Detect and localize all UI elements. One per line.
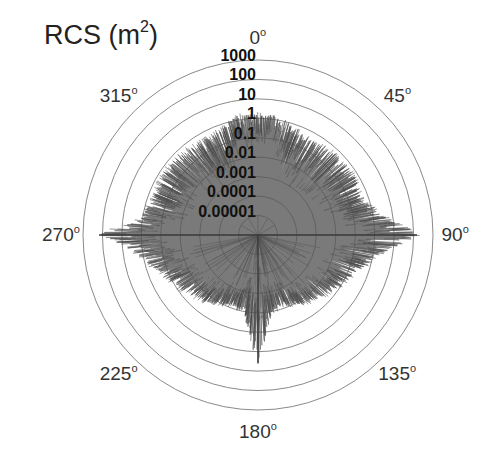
angle-label-225: 225o (100, 363, 138, 385)
angle-label-0: 0o (250, 27, 267, 49)
angle-label-90: 90o (442, 224, 469, 246)
radial-label: 1000 (146, 48, 256, 64)
radial-label: 0.0001 (146, 184, 256, 200)
angle-label-180: 180o (239, 421, 277, 443)
radial-label: 0.01 (146, 145, 256, 161)
radial-label: 0.00001 (146, 204, 256, 220)
radial-label: 0.1 (146, 126, 256, 142)
radial-label: 10 (146, 87, 256, 103)
angle-label-315: 315o (100, 85, 138, 107)
angle-label-270: 270o (42, 224, 80, 246)
radial-label: 100 (146, 67, 256, 83)
angle-label-135: 135o (378, 363, 416, 385)
angle-label-45: 45o (384, 85, 411, 107)
radial-label: 0.001 (146, 165, 256, 181)
chart-title: RCS (m2) (44, 20, 158, 51)
radial-label: 1 (146, 106, 256, 122)
